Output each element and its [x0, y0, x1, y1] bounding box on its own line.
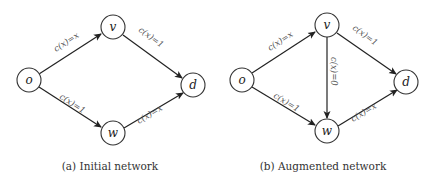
svg-text:o: o	[25, 73, 32, 87]
edge-label-w-d: c(x)=x	[349, 101, 378, 124]
svg-text:d: d	[189, 78, 197, 92]
svg-text:d: d	[402, 75, 410, 89]
edge-label-v-w: c(x)=0	[329, 57, 339, 86]
edge-label-o-w: c(x)=1	[58, 91, 88, 115]
node-v: v	[315, 13, 339, 37]
edge-label-w-d: c(x)=x	[135, 103, 164, 126]
edge-o-w	[252, 87, 315, 125]
svg-text:o: o	[238, 73, 245, 87]
panel-augmented-network: c(x)=x c(x)=1 c(x)=0 c(x)=1 c(x)=x o v w…	[230, 13, 418, 172]
node-v: v	[101, 15, 125, 39]
node-o: o	[230, 68, 254, 92]
edge-label-o-v: c(x)=x	[266, 29, 295, 53]
edge-label-v-d: c(x)=1	[137, 25, 166, 50]
node-d: d	[181, 73, 205, 97]
braess-paradox-figure: c(x)=x c(x)=1 c(x)=1 c(x)=x o v w d (a) …	[0, 0, 432, 183]
panel-initial-network: c(x)=x c(x)=1 c(x)=1 c(x)=x o v w d (a) …	[17, 15, 205, 172]
node-w: w	[101, 121, 125, 145]
caption-initial-network: (a) Initial network	[62, 160, 159, 172]
svg-text:w: w	[108, 126, 119, 140]
svg-text:v: v	[110, 20, 117, 34]
node-o: o	[17, 68, 41, 92]
edge-label-v-d: c(x)=1	[351, 23, 380, 48]
caption-augmented-network: (b) Augmented network	[260, 160, 387, 172]
node-d: d	[394, 70, 418, 94]
node-w: w	[315, 119, 339, 143]
svg-text:w: w	[322, 124, 333, 138]
svg-text:v: v	[324, 18, 331, 32]
